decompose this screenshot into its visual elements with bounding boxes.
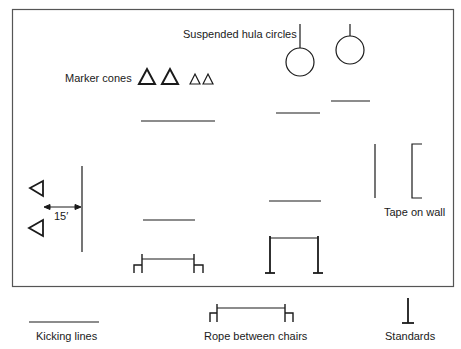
legend-label-rope-between-chairs: Rope between chairs	[204, 331, 307, 342]
hula-circle-icon	[336, 24, 364, 64]
kicking-lines	[82, 101, 370, 252]
tape-on-wall	[375, 144, 422, 198]
rope-between-chairs-icon	[134, 254, 203, 273]
left-cones-icon	[29, 181, 43, 236]
label-distance: 15′	[54, 211, 68, 222]
label-suspended-hula-circles: Suspended hula circles	[183, 29, 297, 40]
standards-icon	[265, 236, 323, 273]
label-tape-on-wall: Tape on wall	[384, 207, 445, 218]
legend-label-kicking-lines: Kicking lines	[36, 331, 97, 342]
legend-rope-icon	[210, 304, 293, 322]
label-marker-cones: Marker cones	[65, 73, 132, 84]
gym-layout-diagram	[0, 0, 461, 349]
marker-cones-icon	[139, 69, 213, 84]
distance-arrow-icon	[44, 205, 81, 210]
legend-standard-icon	[402, 298, 414, 323]
legend-label-standards: Standards	[385, 331, 435, 342]
room-border	[13, 10, 454, 287]
